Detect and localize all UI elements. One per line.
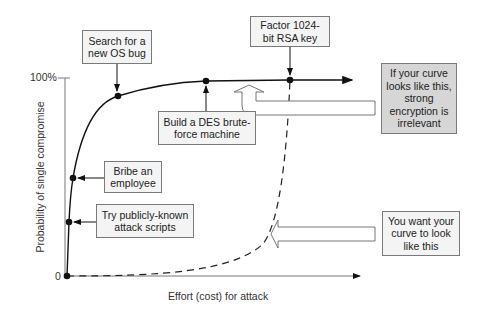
hollow-arrow-to-dashed-curve: [271, 220, 375, 248]
point-attack-scripts: [66, 219, 73, 226]
callout-des: Build a DES brute-force machine: [158, 111, 256, 145]
point-bribe: [70, 175, 77, 182]
point-origin: [64, 273, 71, 280]
callout-rsa: Factor 1024-bit RSA key: [250, 16, 330, 47]
y-tick-0: 0: [55, 270, 61, 282]
callout-os-bug: Search for a new OS bug: [82, 30, 152, 64]
callout-scripts: Try publicly-known attack scripts: [96, 204, 194, 238]
point-rsa: [287, 77, 294, 84]
callout-want: You want your curve to look like this: [382, 211, 460, 256]
chart-canvas: [0, 0, 481, 315]
y-tick-100: 100%: [30, 71, 57, 83]
callout-bribe: Bribe an employee: [104, 161, 162, 193]
point-os-bug: [115, 93, 122, 100]
callout-irrelevant: If your curve looks like this, strong en…: [381, 63, 457, 134]
x-axis-title: Effort (cost) for attack: [168, 290, 268, 302]
point-des: [203, 78, 210, 85]
y-axis-title: Probability of single compromise: [34, 92, 46, 262]
